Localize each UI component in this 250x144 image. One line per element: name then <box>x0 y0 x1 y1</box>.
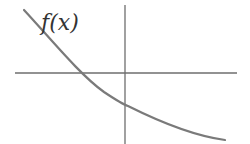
function-graph <box>0 0 250 144</box>
function-label: f(x) <box>41 12 79 34</box>
